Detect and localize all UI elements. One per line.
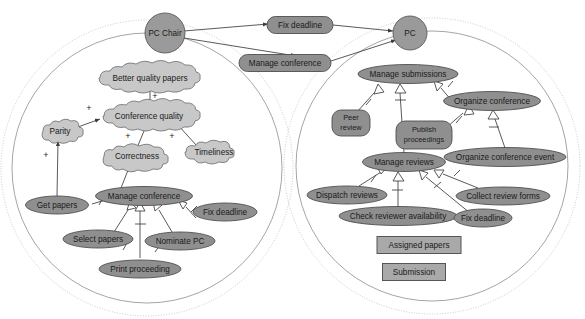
actor-pc[interactable]: PC — [393, 16, 427, 50]
diagram-svg: PC Chair PC Fix deadline Manage conferen… — [0, 0, 585, 319]
softgoal-better-quality-papers[interactable]: Better quality papers — [99, 61, 200, 94]
usecase-fix-deadline-left[interactable]: Fix deadline — [193, 203, 257, 221]
usecase-top-manage-conference[interactable]: Manage conference — [239, 55, 331, 72]
actor-pc-label: PC — [404, 29, 415, 38]
usecase-organize-conference[interactable]: Organize conference — [444, 92, 541, 111]
usecase-organize-conference-label: Organize conference — [454, 97, 530, 106]
usecase-publish-proceedings-line2: proceedings — [404, 135, 445, 144]
usecase-nominate-pc[interactable]: Nominate PC — [145, 232, 215, 250]
usecase-manage-submissions-label: Manage submissions — [370, 70, 447, 79]
usecase-top-manage-conference-label: Manage conference — [249, 59, 322, 68]
softgoal-correctness-label: Correctness — [115, 152, 159, 161]
usecase-manage-reviews-label: Manage reviews — [374, 158, 434, 167]
actor-pc-chair[interactable]: PC Chair — [145, 13, 185, 53]
plus-label-2: + — [86, 103, 91, 113]
usecase-publish-proceedings[interactable]: Publish proceedings — [396, 121, 452, 149]
softgoal-correctness[interactable]: Correctness — [103, 144, 168, 172]
usecase-nominate-pc-label: Nominate PC — [156, 237, 205, 246]
usecase-fix-deadline-left-label: Fix deadline — [203, 208, 248, 217]
usecase-top-fix-deadline[interactable]: Fix deadline — [267, 17, 333, 34]
usecase-collect-review-forms-label: Collect review forms — [466, 192, 540, 201]
usecase-get-papers[interactable]: Get papers — [26, 196, 89, 214]
usecase-dispatch-reviews-label: Dispatch reviews — [316, 191, 378, 200]
usecase-manage-reviews[interactable]: Manage reviews — [363, 153, 446, 172]
usecase-fix-deadline-right-label: Fix deadline — [461, 214, 506, 223]
softgoal-parity[interactable]: Parity — [42, 119, 83, 143]
diagram-canvas: PC Chair PC Fix deadline Manage conferen… — [0, 0, 585, 319]
softgoal-conference-quality[interactable]: Conference quality — [103, 99, 200, 132]
usecase-select-papers-label: Select papers — [73, 235, 123, 244]
usecase-print-proceeding-label: Print proceeding — [110, 265, 170, 274]
entity-assigned-papers[interactable]: Assigned papers — [377, 237, 461, 254]
usecase-organize-conference-event[interactable]: Organize conference event — [444, 148, 566, 167]
usecase-collect-review-forms[interactable]: Collect review forms — [456, 187, 550, 205]
softgoal-conference-quality-label: Conference quality — [115, 112, 184, 121]
entity-submission[interactable]: Submission — [383, 264, 446, 281]
plus-label-3: + — [125, 131, 130, 141]
usecase-peer-review[interactable]: Peer review — [332, 110, 370, 136]
usecase-select-papers[interactable]: Select papers — [63, 230, 133, 248]
usecase-organize-conference-event-label: Organize conference event — [456, 153, 555, 162]
usecase-manage-conference[interactable]: Manage conference — [96, 187, 193, 206]
usecase-check-reviewer-availability-label: Check reviewer availability — [350, 212, 447, 221]
usecase-peer-review-line1: Peer — [343, 113, 359, 122]
usecase-manage-submissions[interactable]: Manage submissions — [358, 65, 458, 84]
entity-submission-label: Submission — [393, 268, 436, 277]
usecase-print-proceeding[interactable]: Print proceeding — [99, 260, 181, 278]
softgoal-better-quality-papers-label: Better quality papers — [112, 74, 187, 83]
softgoal-timeliness[interactable]: Timeliness — [185, 140, 234, 164]
entity-assigned-papers-label: Assigned papers — [389, 241, 450, 250]
usecase-fix-deadline-right[interactable]: Fix deadline — [454, 209, 512, 227]
plus-label-4: + — [169, 131, 174, 141]
usecase-check-reviewer-availability[interactable]: Check reviewer availability — [339, 207, 457, 226]
usecase-dispatch-reviews[interactable]: Dispatch reviews — [307, 186, 387, 204]
softgoal-timeliness-label: Timeliness — [195, 148, 234, 157]
softgoal-parity-label: Parity — [50, 127, 72, 136]
usecase-top-fix-deadline-label: Fix deadline — [278, 21, 323, 30]
usecase-manage-conference-label: Manage conference — [108, 192, 181, 201]
usecase-peer-review-line2: review — [340, 123, 362, 132]
plus-label-5: + — [43, 150, 48, 160]
usecase-get-papers-label: Get papers — [37, 201, 78, 210]
actor-pc-chair-label: PC Chair — [148, 29, 181, 38]
usecase-publish-proceedings-line1: Publish — [412, 125, 436, 134]
